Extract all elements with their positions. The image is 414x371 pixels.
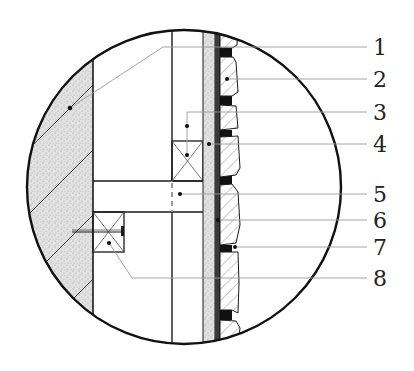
- horizontal-member: [93, 181, 203, 212]
- callout-label-8: 8: [373, 266, 387, 291]
- callout-label-7: 7: [373, 235, 387, 260]
- section-detail-drawing: 1 2 3 4 5 6 7 8: [0, 0, 414, 371]
- callout-labels: 1 2 3 4 5 6 7 8: [373, 35, 387, 291]
- callout-label-1: 1: [373, 35, 387, 60]
- sheathing-board: [203, 20, 215, 360]
- callout-label-5: 5: [373, 182, 387, 207]
- stone-veneer: [220, 25, 240, 348]
- detail-contents: [20, 20, 240, 360]
- callout-label-4: 4: [373, 132, 387, 157]
- membrane: [215, 20, 220, 360]
- timber-blocking-upper: [172, 141, 203, 181]
- callout-label-6: 6: [373, 208, 387, 233]
- callout-label-3: 3: [373, 100, 387, 125]
- concrete-wall: [20, 20, 93, 360]
- callout-label-2: 2: [373, 67, 387, 92]
